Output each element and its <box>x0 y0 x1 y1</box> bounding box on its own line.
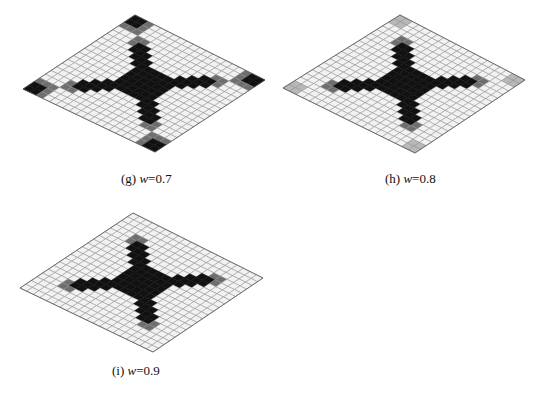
lattice-i-diagram <box>0 0 545 397</box>
caption-i-label: (i) <box>112 363 128 378</box>
caption-i-var: w <box>128 363 137 378</box>
caption-i-value: =0.9 <box>136 363 160 378</box>
caption-i: (i) w=0.9 <box>112 363 160 379</box>
